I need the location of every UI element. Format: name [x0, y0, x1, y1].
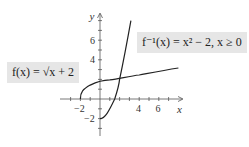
x-tick-4: 4	[136, 103, 141, 114]
x-axis	[60, 97, 183, 102]
f-inverse-function-label: f⁻¹(x) = x² − 2, x ≥ 0	[137, 32, 247, 53]
f-curve	[80, 68, 178, 99]
y-tick-4: 4	[90, 54, 95, 65]
f-inverse-curve	[100, 21, 131, 119]
x-axis-label: x	[176, 103, 182, 115]
y-tick-6: 6	[90, 35, 95, 46]
x-tick-6: 6	[156, 103, 161, 114]
f-inverse-function-text: f⁻¹(x) = x² − 2, x ≥ 0	[142, 35, 242, 49]
y-axis-label: y	[89, 10, 95, 22]
y-axis	[98, 13, 103, 136]
f-function-label: f(x) = √x + 2	[7, 62, 79, 83]
y-tick-neg2: −2	[84, 113, 95, 124]
f-function-text: f(x) = √x + 2	[12, 65, 74, 79]
